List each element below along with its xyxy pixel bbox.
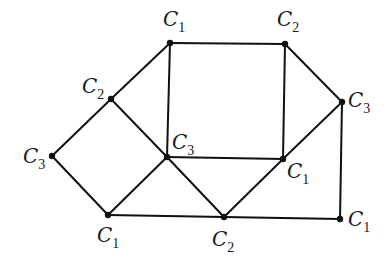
vertex-n_bot_left — [105, 212, 111, 218]
vertex-label: C1 — [163, 7, 185, 35]
vertex-label-subscript: 2 — [292, 20, 299, 35]
vertex-n_bot_right — [337, 216, 343, 222]
vertex-n_mid_right — [280, 156, 286, 162]
vertex-label: C2 — [82, 74, 104, 102]
vertex-label-subscript: 3 — [38, 157, 45, 172]
vertex-n_far_left — [49, 153, 55, 159]
edge-n_left_upper-n_far_left — [52, 99, 111, 156]
edge-n_top_right-n_mid_right — [283, 44, 285, 159]
vertex-label-subscript: 2 — [97, 87, 104, 102]
vertex-label: C3 — [172, 130, 194, 158]
vertex-label-subscript: 1 — [112, 236, 119, 251]
edge-n_top_left-n_top_right — [170, 43, 285, 44]
vertex-label: C3 — [348, 88, 370, 116]
edge-n_bot_left-n_center — [108, 157, 167, 215]
edge-n_mid_right-n_bot_mid — [224, 159, 283, 217]
vertex-label: C2 — [212, 227, 234, 255]
edge-n_top_right-n_right — [285, 44, 342, 102]
edge-n_bot_left-n_bot_mid — [108, 215, 224, 217]
vertex-label-subscript: 3 — [187, 143, 194, 158]
vertex-label-subscript: 2 — [227, 240, 234, 255]
vertex-label: C2 — [277, 7, 299, 35]
edge-n_top_left-n_center — [167, 43, 170, 157]
vertex-n_center — [164, 154, 170, 160]
edge-n_mid_right-n_right — [283, 102, 342, 159]
vertex-n_left_upper — [108, 96, 114, 102]
graph-diagram: C1C2C2C3C3C3C1C1C2C1 — [0, 0, 390, 268]
vertex-label-subscript: 3 — [363, 101, 370, 116]
nodes-group — [49, 40, 345, 222]
vertex-label: C1 — [348, 207, 370, 235]
vertex-n_top_left — [167, 40, 173, 46]
edge-n_top_left-n_left_upper — [111, 43, 170, 99]
edge-n_far_left-n_bot_left — [52, 156, 108, 215]
edge-n_right-n_bot_right — [340, 102, 342, 219]
edge-n_center-n_bot_mid — [167, 157, 224, 217]
edges-group — [52, 43, 342, 219]
edge-n_left_upper-n_center — [111, 99, 167, 157]
edge-n_bot_mid-n_bot_right — [224, 217, 340, 219]
vertex-n_bot_mid — [221, 214, 227, 220]
vertex-label: C3 — [23, 144, 45, 172]
vertex-label-subscript: 1 — [363, 220, 370, 235]
vertex-n_top_right — [282, 41, 288, 47]
vertex-label: C1 — [287, 159, 309, 187]
edge-n_center-n_mid_right — [167, 157, 283, 159]
vertex-label-subscript: 1 — [302, 172, 309, 187]
vertex-n_right — [339, 99, 345, 105]
vertex-label-subscript: 1 — [178, 20, 185, 35]
vertex-label: C1 — [97, 223, 119, 251]
